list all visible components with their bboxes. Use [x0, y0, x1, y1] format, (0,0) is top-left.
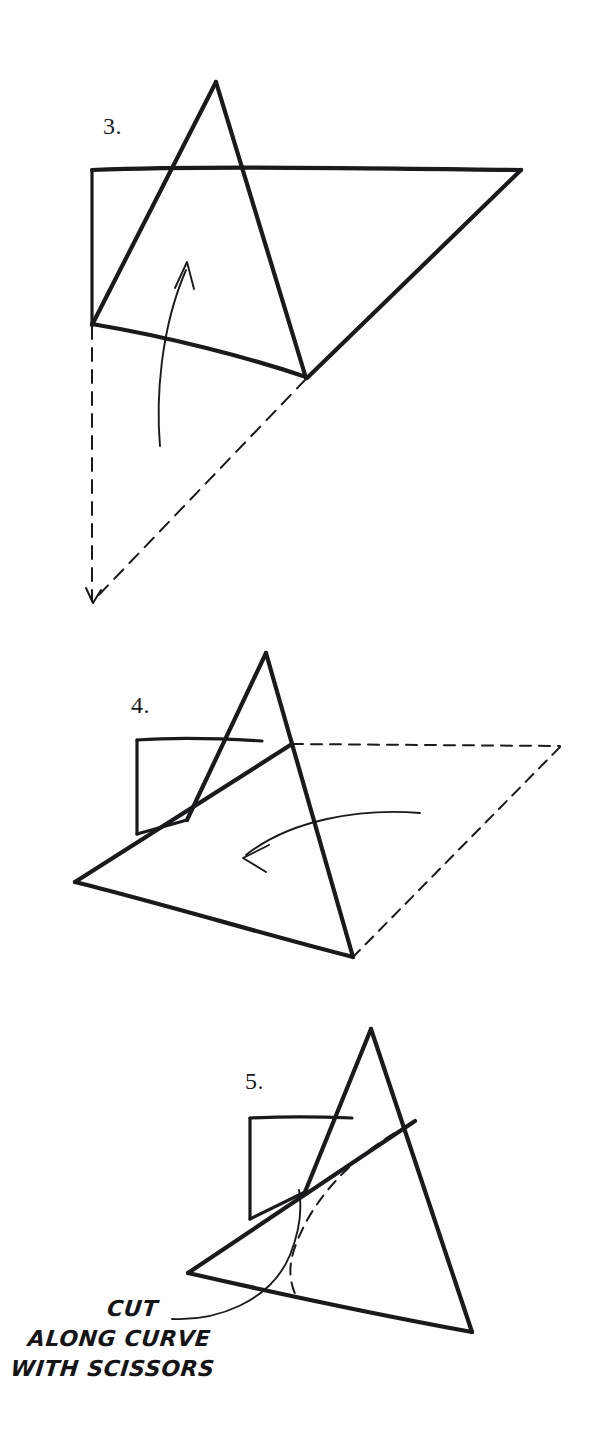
- step-4-hidden-outline: [292, 744, 560, 957]
- folded-triangle-lower-edge: [75, 882, 353, 957]
- triangle-right-edge: [216, 82, 306, 378]
- step-3-number-label: 3.: [103, 113, 122, 140]
- step-5-number-label: 5.: [245, 1068, 264, 1095]
- dashed-line-arrowhead: [86, 588, 101, 603]
- step-5-cut-curve: [290, 1124, 411, 1296]
- fold-arrow-head: [243, 845, 269, 872]
- instruction-diagram-canvas: .ink { stroke: #1a1a1c; fill: none; stro…: [0, 0, 590, 1430]
- step-5-figure: [172, 1029, 472, 1332]
- standing-triangle-left-edge: [305, 1029, 371, 1192]
- standing-triangle-right-edge: [371, 1029, 472, 1332]
- sheet-top-edge: [92, 168, 521, 170]
- fold-arrow-shaft: [246, 812, 420, 855]
- fold-crease-segment: [137, 820, 187, 834]
- step-4-base-sheet: [137, 738, 262, 834]
- dashed-horizontal-line: [292, 744, 560, 746]
- caption-line-1: CUT: [8, 1294, 271, 1324]
- folded-triangle-upper-edge: [188, 1121, 415, 1273]
- dashed-diagonal-line: [93, 379, 306, 601]
- standing-triangle-left-edge: [187, 653, 266, 820]
- dashed-cut-line: [290, 1124, 411, 1296]
- sheet-right-edge: [307, 170, 521, 378]
- cut-instruction-caption: CUT ALONG CURVE WITH SCISSORS: [1, 1294, 270, 1384]
- folded-triangle-upper-edge: [75, 744, 292, 882]
- step-3-fold-arrow: [159, 262, 194, 446]
- step-3-triangle-flap: [92, 82, 306, 378]
- diagram-page: .ink { stroke: #1a1a1c; fill: none; stro…: [0, 0, 590, 1430]
- step-4-standing-triangle: [187, 653, 353, 957]
- step-3-figure: [86, 82, 521, 603]
- sheet-bottom-edge: [92, 324, 306, 377]
- step-4-number-label: 4.: [131, 692, 150, 719]
- caption-line-2: ALONG CURVE: [4, 1324, 267, 1354]
- sheet-top-edge: [137, 738, 262, 741]
- step-5-standing-triangle: [305, 1029, 472, 1332]
- caption-line-3: WITH SCISSORS: [1, 1354, 264, 1384]
- step-4-folded-triangle: [75, 744, 353, 957]
- standing-triangle-right-edge: [266, 653, 353, 957]
- fold-arrow-shaft: [159, 270, 186, 446]
- step-4-fold-arrow: [243, 812, 420, 872]
- dashed-diagonal-line: [353, 747, 560, 957]
